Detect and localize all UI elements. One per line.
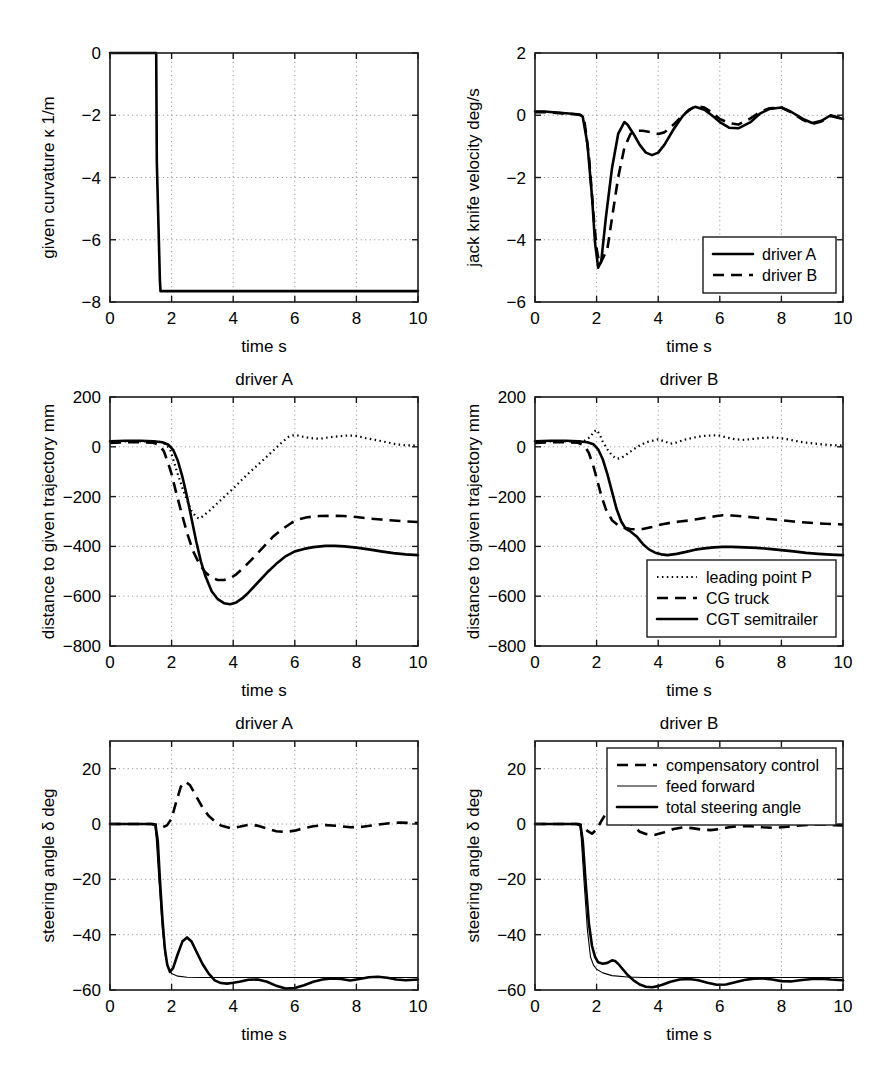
legend-label: CG truck <box>706 590 770 607</box>
x-tick-label: 8 <box>777 653 786 672</box>
trace-given-curvature <box>110 53 418 291</box>
y-axis-label: distance to given trajectory mm <box>39 404 58 639</box>
x-tick-label: 4 <box>228 309 237 328</box>
y-tick-label: −200 <box>63 488 101 507</box>
y-tick-label: 0 <box>517 815 526 834</box>
x-tick-label: 8 <box>777 997 786 1016</box>
legend-label: total steering angle <box>666 799 801 816</box>
x-tick-label: 8 <box>352 997 361 1016</box>
x-tick-label: 6 <box>290 309 299 328</box>
subplot-steering-driver-b: 0246810200−20−40−60time ssteering angle … <box>425 702 893 1046</box>
x-tick-label: 6 <box>715 997 724 1016</box>
x-tick-label: 6 <box>715 309 724 328</box>
x-tick-label: 0 <box>530 653 539 672</box>
x-axis-label: time s <box>241 1025 286 1044</box>
x-axis-label: time s <box>666 1025 711 1044</box>
plot-jack-knife-velocity: 024681020−2−4−6time sjack knife velocity… <box>425 14 893 358</box>
trace-cgt-semitrailer <box>110 441 418 604</box>
legend: compensatory controlfeed forwardtotal st… <box>607 748 836 825</box>
x-tick-label: 0 <box>530 997 539 1016</box>
legend-label: feed forward <box>666 778 755 795</box>
y-tick-label: 2 <box>517 44 526 63</box>
y-tick-label: −6 <box>507 293 526 312</box>
trace-cg-truck <box>110 442 418 580</box>
y-tick-label: 200 <box>73 388 101 407</box>
y-tick-label: −4 <box>82 169 101 188</box>
x-tick-label: 8 <box>352 309 361 328</box>
legend: leading point PCG truckCGT semitrailer <box>647 560 836 637</box>
y-tick-label: −600 <box>488 587 526 606</box>
y-tick-label: −4 <box>507 231 526 250</box>
y-tick-label: −400 <box>63 537 101 556</box>
trace-feed-forward <box>535 824 843 978</box>
y-axis-label: steering angle δ deg <box>39 788 58 942</box>
x-tick-label: 0 <box>105 309 114 328</box>
y-axis-label: jack knife velocity deg/s <box>464 88 483 268</box>
subplot-distance-driver-a: 02468102000−200−400−600−800time sdistanc… <box>0 358 468 702</box>
plot-steering-driver-a: 0246810200−20−40−60time ssteering angle … <box>0 702 468 1046</box>
trace-total-steering-angle <box>110 824 418 989</box>
y-tick-label: −20 <box>497 870 526 889</box>
trace-total-steering-angle <box>535 824 843 987</box>
x-axis-label: time s <box>666 337 711 356</box>
x-tick-label: 4 <box>228 997 237 1016</box>
x-tick-label: 10 <box>834 309 853 328</box>
y-tick-label: −400 <box>488 537 526 556</box>
x-tick-label: 0 <box>105 997 114 1016</box>
x-tick-label: 4 <box>653 997 662 1016</box>
y-tick-label: 0 <box>92 44 101 63</box>
x-tick-label: 6 <box>290 653 299 672</box>
y-tick-label: 0 <box>92 815 101 834</box>
x-tick-label: 4 <box>653 653 662 672</box>
subplot-steering-driver-a: 0246810200−20−40−60time ssteering angle … <box>0 702 468 1046</box>
x-axis-label: time s <box>241 337 286 356</box>
figure-root: 02468100−2−4−6−8time sgiven curvature κ … <box>0 0 893 1075</box>
y-tick-label: −20 <box>72 870 101 889</box>
trace-cgt-semitrailer <box>535 441 843 555</box>
plot-distance-driver-a: 02468102000−200−400−600−800time sdistanc… <box>0 358 468 702</box>
x-tick-label: 2 <box>167 653 176 672</box>
trace-leading-point-p <box>110 435 418 519</box>
x-tick-label: 4 <box>228 653 237 672</box>
legend-label: driver B <box>762 267 817 284</box>
y-tick-label: −8 <box>82 293 101 312</box>
plot-distance-driver-b: 02468102000−200−400−600−800time sdistanc… <box>425 358 893 702</box>
legend-label: driver A <box>762 246 817 263</box>
subplot-given-curvature: 02468100−2−4−6−8time sgiven curvature κ … <box>0 14 468 358</box>
y-tick-label: −2 <box>82 106 101 125</box>
x-tick-label: 10 <box>834 997 853 1016</box>
legend-label: compensatory control <box>666 757 819 774</box>
x-tick-label: 6 <box>715 653 724 672</box>
x-tick-label: 0 <box>530 309 539 328</box>
trace-feed-forward <box>110 824 418 978</box>
x-tick-label: 2 <box>592 653 601 672</box>
x-tick-label: 8 <box>352 653 361 672</box>
y-axis-label: distance to given trajectory mm <box>464 404 483 639</box>
subplot-title: driver A <box>235 370 293 389</box>
y-tick-label: −200 <box>488 488 526 507</box>
x-tick-label: 2 <box>592 997 601 1016</box>
x-tick-label: 0 <box>105 653 114 672</box>
y-axis-label: steering angle δ deg <box>464 788 483 942</box>
x-tick-label: 2 <box>167 309 176 328</box>
subplot-jack-knife-velocity: 024681020−2−4−6time sjack knife velocity… <box>425 14 893 358</box>
plot-given-curvature: 02468100−2−4−6−8time sgiven curvature κ … <box>0 14 468 358</box>
y-axis-label: given curvature κ 1/m <box>39 96 58 259</box>
y-tick-label: −800 <box>488 637 526 656</box>
y-tick-label: −6 <box>82 231 101 250</box>
x-axis-label: time s <box>241 681 286 700</box>
x-tick-label: 10 <box>834 653 853 672</box>
plot-steering-driver-b: 0246810200−20−40−60time ssteering angle … <box>425 702 893 1046</box>
y-tick-label: −600 <box>63 587 101 606</box>
x-tick-label: 2 <box>592 309 601 328</box>
x-tick-label: 8 <box>777 309 786 328</box>
y-tick-label: 0 <box>517 106 526 125</box>
trace-cg-truck <box>535 442 843 529</box>
subplot-distance-driver-b: 02468102000−200−400−600−800time sdistanc… <box>425 358 893 702</box>
y-tick-label: −40 <box>497 926 526 945</box>
y-tick-label: −60 <box>72 981 101 1000</box>
y-tick-label: 20 <box>82 760 101 779</box>
x-tick-label: 2 <box>167 997 176 1016</box>
axes-frame <box>110 397 418 646</box>
x-tick-label: 6 <box>290 997 299 1016</box>
